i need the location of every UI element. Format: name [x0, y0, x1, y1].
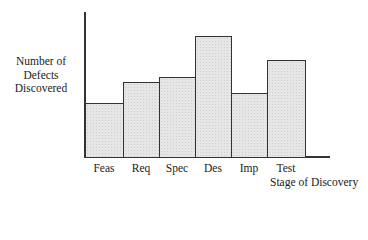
bar-req	[123, 82, 160, 157]
x-tick-label-req: Req	[123, 162, 159, 174]
x-tick-label-spec: Spec	[159, 162, 195, 174]
x-tick-label-imp: Imp	[231, 162, 267, 174]
y-axis-label-line-3: Discovered	[2, 82, 80, 96]
bar-imp	[231, 93, 268, 157]
x-tick-label-des: Des	[195, 162, 231, 174]
x-tick-label-feas: Feas	[86, 162, 122, 174]
bar-des	[195, 36, 232, 157]
bar-test	[267, 60, 306, 157]
y-axis-label-line-1: Number of	[2, 55, 80, 69]
x-axis-label: Stage of Discovery	[270, 176, 358, 188]
bar-feas	[85, 103, 124, 157]
bar-spec	[159, 77, 196, 157]
y-axis-label-line-2: Defects	[2, 69, 80, 83]
y-axis-label: Number of Defects Discovered	[2, 55, 80, 96]
x-tick-label-test: Test	[268, 162, 304, 174]
